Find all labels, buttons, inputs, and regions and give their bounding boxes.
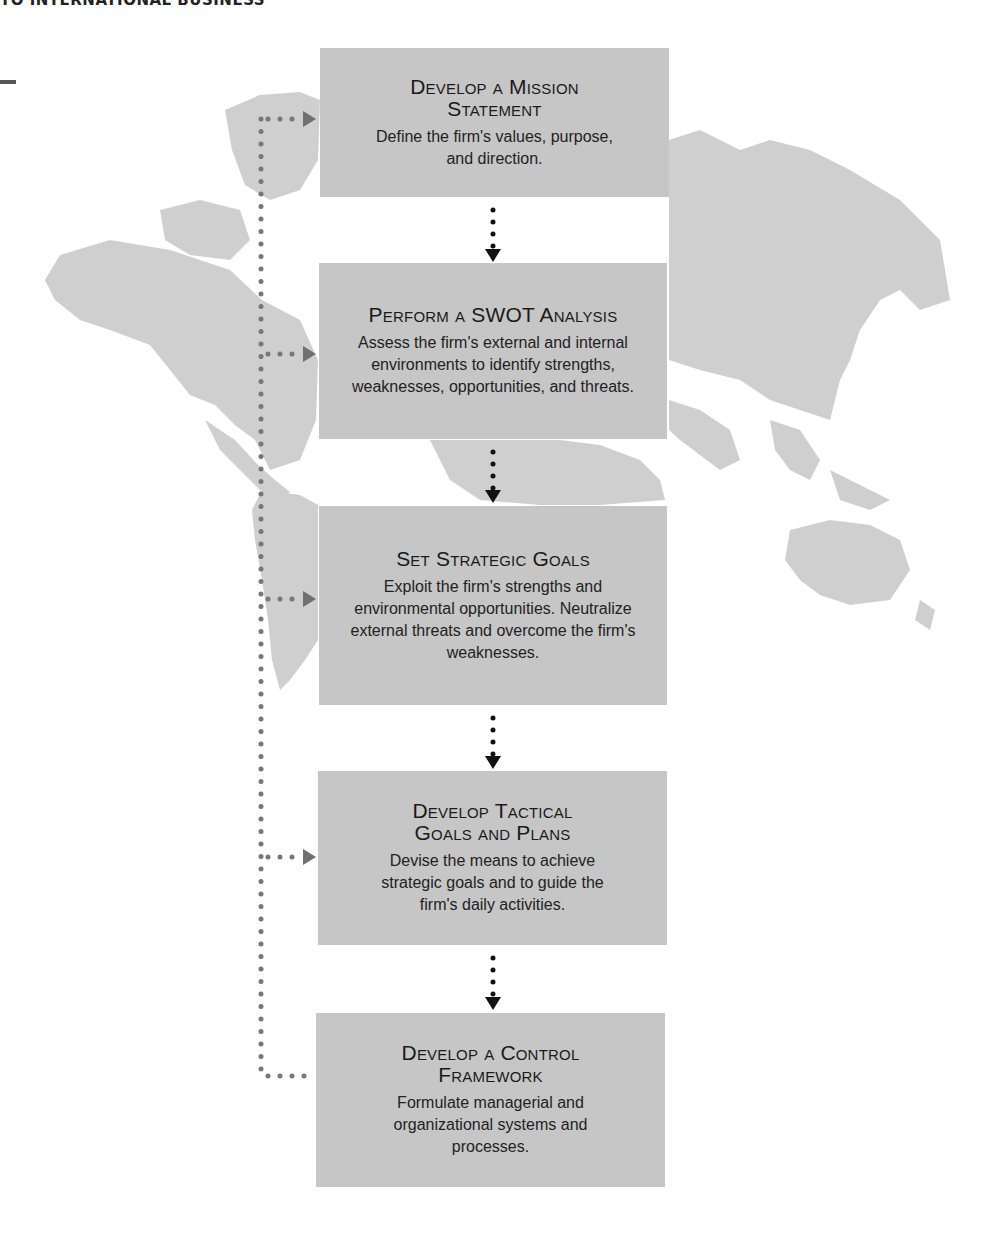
- step-description: Assess the firm's external and internal …: [343, 332, 643, 398]
- step-title: Develop a ControlFramework: [402, 1042, 580, 1086]
- flow-arrow-down-icon: [485, 756, 501, 769]
- step-title: Perform a SWOT Analysis: [369, 304, 618, 326]
- step-swot-analysis: Perform a SWOT Analysis Assess the firm'…: [319, 263, 667, 439]
- step-description: Exploit the firm's strengths and environ…: [348, 576, 638, 664]
- step-strategic-goals: Set Strategic Goals Exploit the firm's s…: [319, 506, 667, 705]
- step-title: Set Strategic Goals: [396, 548, 590, 570]
- step-description: Devise the means to achieve strategic go…: [368, 850, 618, 916]
- flow-arrow-down-icon: [485, 249, 501, 262]
- feedback-arrow-icon: [303, 111, 316, 127]
- flow-arrow-down-icon: [485, 997, 501, 1010]
- step-mission-statement: Develop a MissionStatement Define the fi…: [320, 48, 669, 197]
- step-title: Develop a MissionStatement: [410, 76, 579, 120]
- step-description: Formulate managerial and organizational …: [371, 1092, 611, 1158]
- step-tactical-goals: Develop TacticalGoals and Plans Devise t…: [318, 771, 667, 945]
- feedback-arrow-icon: [303, 849, 316, 865]
- step-description: Define the firm's values, purpose, and d…: [370, 126, 620, 170]
- feedback-arrow-icon: [303, 346, 316, 362]
- flow-arrow-down-icon: [485, 490, 501, 503]
- feedback-arrow-icon: [303, 591, 316, 607]
- step-title: Develop TacticalGoals and Plans: [412, 800, 572, 844]
- step-control-framework: Develop a ControlFramework Formulate man…: [316, 1013, 665, 1187]
